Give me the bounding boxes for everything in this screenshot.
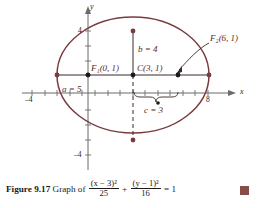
equation-term-2: (y − 1)² 16 <box>131 179 161 198</box>
equation-plus: + <box>122 184 127 194</box>
equation-equals-one: = 1 <box>164 184 176 194</box>
point-left-vertex <box>55 73 60 78</box>
point-center <box>131 73 136 78</box>
point-focus-2 <box>176 73 181 78</box>
label-focus-2: F₂(6, 1) <box>210 34 238 43</box>
term1-denominator: 25 <box>89 189 119 198</box>
end-of-figure-marker <box>240 186 249 195</box>
equation-term-1: (x − 3)² 25 <box>89 179 119 198</box>
y-tick-label-neg4: –4 <box>74 151 82 159</box>
label-focal-distance-c: c = 3 <box>144 106 163 115</box>
label-semi-major-a: a = 5 <box>62 85 82 94</box>
x-tick-label-neg4: –4 <box>25 96 33 104</box>
figure-caption: Figure 9.17 Graph of (x − 3)² 25 + (y − … <box>6 179 258 198</box>
y-axis <box>85 6 91 170</box>
x-tick-label-8: 8 <box>206 96 210 104</box>
y-tick-label-4: 4 <box>78 27 82 35</box>
label-center: C(3, 1) <box>137 64 163 73</box>
ellipse-figure <box>0 0 264 208</box>
term2-denominator: 16 <box>131 189 161 198</box>
caption-graph-of: Graph of <box>53 184 86 194</box>
y-axis-label: y <box>90 3 94 11</box>
point-right-vertex <box>207 73 212 78</box>
x-axis-label: x <box>240 88 244 96</box>
point-bottom-covertex <box>131 138 136 143</box>
point-top-covertex <box>131 29 136 34</box>
label-focus-1: F₁(0, 1) <box>91 64 119 73</box>
point-focus-1 <box>86 73 91 78</box>
label-semi-minor-b: b = 4 <box>138 45 158 54</box>
figure-number: Figure 9.17 <box>6 184 50 194</box>
